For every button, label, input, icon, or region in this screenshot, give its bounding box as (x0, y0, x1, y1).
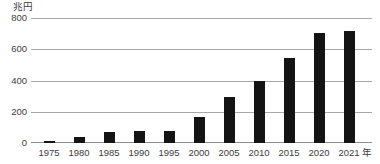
bar-2005 (224, 97, 235, 144)
x-axis: 1975 1980 1985 1990 1995 2000 2005 2010 … (0, 147, 380, 164)
bar-2021 (344, 31, 355, 143)
bar-chart: 兆円 800 600 400 200 0 1975 1980 1985 1990… (0, 0, 380, 164)
bar-2000 (194, 117, 205, 143)
bar-1985 (104, 132, 115, 143)
bar-2010 (254, 81, 265, 143)
bar-1990 (134, 131, 145, 143)
y-tick-label-400: 400 (1, 76, 27, 86)
y-tick-label-800: 800 (1, 13, 27, 23)
gridline-800 (31, 18, 372, 19)
bar-1975 (44, 141, 55, 143)
y-tick-label-600: 600 (1, 44, 27, 54)
bar-1980 (74, 137, 85, 143)
y-tick-label-200: 200 (1, 107, 27, 117)
bar-2015 (284, 58, 295, 143)
plot-area (31, 18, 372, 143)
bar-2020 (314, 33, 325, 143)
bar-1995 (164, 131, 175, 143)
x-axis-unit-label: 年 (362, 147, 372, 159)
y-axis-unit-label: 兆円 (13, 1, 33, 12)
